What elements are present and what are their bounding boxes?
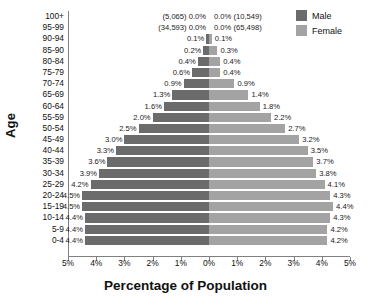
- male-value-label: 0.1%: [187, 33, 204, 44]
- table-row: 3.0%3.2%: [68, 134, 350, 145]
- table-row: 1.3%1.4%: [68, 89, 350, 100]
- bar-female: [209, 68, 220, 77]
- bar-female: [209, 146, 308, 155]
- female-value-label: 4.2%: [330, 224, 347, 235]
- legend-swatch-icon: [296, 25, 307, 36]
- bar-female: [209, 34, 212, 43]
- female-value-label: 0.4%: [223, 67, 240, 78]
- y-axis-tick-label: 50-54: [18, 123, 64, 134]
- x-axis-tick-label: 2%: [147, 258, 159, 268]
- male-value-label: 2.5%: [119, 123, 136, 134]
- table-row: 0.4%0.4%: [68, 56, 350, 67]
- bar-female: [209, 169, 316, 178]
- x-axis-title: Percentage of Population: [0, 278, 371, 293]
- bar-male: [124, 135, 209, 144]
- bar-female: [209, 236, 327, 245]
- y-axis-tick-label: 75-79: [18, 67, 64, 78]
- female-value-label: 4.4%: [336, 201, 353, 212]
- male-value-label: 1.6%: [145, 101, 162, 112]
- legend-label: Male: [312, 11, 332, 21]
- chart-legend: MaleFemale: [296, 10, 368, 40]
- female-value-label: 3.7%: [316, 156, 333, 167]
- female-value-label: 0.1%: [215, 33, 232, 44]
- male-value-label: 3.6%: [88, 156, 105, 167]
- female-value-label: 4.3%: [333, 212, 350, 223]
- table-row: 4.5%4.3%: [68, 190, 350, 201]
- bar-male: [85, 236, 209, 245]
- female-value-label: 3.2%: [302, 134, 319, 145]
- male-value-label: 2.0%: [133, 112, 150, 123]
- y-axis-tick-label: 40-44: [18, 145, 64, 156]
- female-value-label: 2.7%: [288, 123, 305, 134]
- y-axis-tick-label: 80-84: [18, 56, 64, 67]
- male-value-label: 0.2%: [184, 45, 201, 56]
- x-axis-tick-label: 5%: [344, 258, 356, 268]
- female-value-label: 4.2%: [330, 235, 347, 246]
- x-axis-tick-label: 2%: [259, 258, 271, 268]
- male-value-label: 0.9%: [164, 78, 181, 89]
- table-row: 4.2%4.1%: [68, 179, 350, 190]
- legend-label: Female: [312, 26, 342, 36]
- x-axis-tick-label: 1%: [231, 258, 243, 268]
- bar-male: [91, 180, 209, 189]
- male-value-label: 3.3%: [97, 145, 114, 156]
- bar-female: [209, 191, 330, 200]
- y-axis-tick-label: 70-74: [18, 78, 64, 89]
- y-axis-title: Age: [3, 96, 18, 156]
- bar-male: [107, 157, 209, 166]
- y-axis-tick-label: 35-39: [18, 156, 64, 167]
- bar-male: [153, 113, 209, 122]
- y-axis-tick-label: 45-49: [18, 134, 64, 145]
- male-value-label: 4.2%: [71, 179, 88, 190]
- bar-male: [172, 90, 209, 99]
- table-row: 1.6%1.8%: [68, 101, 350, 112]
- table-row: 2.5%2.7%: [68, 123, 350, 134]
- bar-male: [116, 146, 209, 155]
- bar-male: [139, 124, 210, 133]
- x-axis-tick-labels: 5%4%3%2%1%0%1%2%3%4%5%: [68, 258, 350, 272]
- male-value-label: 0.6%: [173, 67, 190, 78]
- x-axis-tick-label: 4%: [316, 258, 328, 268]
- plot-area: (5,065) 0.0%0.0% (10,549)(34,593) 0.0%0.…: [68, 11, 350, 256]
- bar-female: [209, 46, 217, 55]
- female-value-label: 1.8%: [263, 101, 280, 112]
- x-axis-tick-label: 0%: [203, 258, 215, 268]
- bar-female: [209, 135, 299, 144]
- bar-female: [209, 157, 313, 166]
- x-axis-tick-label: 1%: [175, 258, 187, 268]
- male-value-label: 4.4%: [66, 212, 83, 223]
- table-row: 4.4%4.2%: [68, 235, 350, 246]
- y-axis-tick-label: 25-29: [18, 179, 64, 190]
- table-row: 0.9%0.9%: [68, 78, 350, 89]
- male-value-label: 4.5%: [63, 201, 80, 212]
- legend-item: Male: [296, 10, 368, 21]
- y-axis-tick-label: 10-14: [18, 212, 64, 223]
- bar-female: [209, 202, 333, 211]
- x-axis-tick-label: 3%: [288, 258, 300, 268]
- female-value-label: 1.4%: [251, 89, 268, 100]
- bar-male: [85, 213, 209, 222]
- bar-female: [209, 180, 325, 189]
- bar-male: [192, 68, 209, 77]
- bar-female: [209, 90, 248, 99]
- bar-male: [184, 79, 209, 88]
- y-axis-tick-label: 60-64: [18, 101, 64, 112]
- table-row: 0.6%0.4%: [68, 67, 350, 78]
- table-row: 3.3%3.5%: [68, 145, 350, 156]
- population-pyramid-chart: Age 100+95-9990-9485-9080-8475-7970-7465…: [0, 0, 371, 303]
- y-axis-tick-label: 55-59: [18, 112, 64, 123]
- male-value-label: 4.4%: [66, 224, 83, 235]
- table-row: 4.4%4.2%: [68, 224, 350, 235]
- x-axis-tick-label: 5%: [62, 258, 74, 268]
- female-value-label: 3.5%: [311, 145, 328, 156]
- female-count-annotation: 0.0% (10,549): [214, 11, 262, 22]
- y-axis-tick-label: 30-34: [18, 168, 64, 179]
- male-value-label: 0.4%: [178, 56, 195, 67]
- female-count-annotation: 0.0% (65,498): [214, 22, 262, 33]
- female-value-label: 4.3%: [333, 190, 350, 201]
- male-value-label: 1.3%: [153, 89, 170, 100]
- bar-male: [99, 169, 209, 178]
- bar-male: [198, 57, 209, 66]
- x-axis-tick-label: 3%: [118, 258, 130, 268]
- female-value-label: 0.4%: [223, 56, 240, 67]
